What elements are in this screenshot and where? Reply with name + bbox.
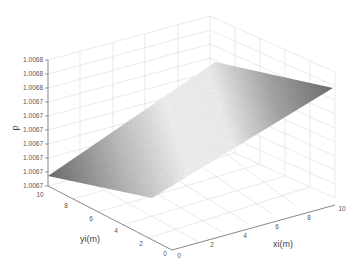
svg-text:0: 0 [163, 250, 167, 257]
svg-text:0: 0 [177, 252, 181, 259]
svg-text:1.0068: 1.0068 [23, 56, 43, 63]
surface [48, 62, 333, 198]
svg-text:10: 10 [36, 191, 44, 198]
y-tick-labels: 10 8 6 4 2 0 [36, 191, 167, 257]
svg-text:1.0067: 1.0067 [23, 140, 43, 147]
svg-text:1.0067: 1.0067 [23, 98, 43, 105]
svg-text:1.0067: 1.0067 [23, 168, 43, 175]
svg-text:4: 4 [243, 232, 247, 239]
svg-text:1.0068: 1.0068 [23, 70, 43, 77]
svg-text:8: 8 [64, 202, 68, 209]
z-tick-labels: 1.0068 1.0068 1.0068 1.0067 1.0067 1.006… [23, 56, 43, 189]
y-axis-label: yi(m) [80, 234, 100, 244]
svg-text:8: 8 [307, 214, 311, 221]
svg-text:4: 4 [114, 227, 118, 234]
svg-text:2: 2 [210, 241, 214, 248]
svg-text:10: 10 [338, 205, 346, 212]
z-axis-label: p [10, 125, 20, 130]
svg-text:1.0067: 1.0067 [23, 182, 43, 189]
surface-plot: 1.0068 1.0068 1.0068 1.0067 1.0067 1.006… [0, 0, 359, 268]
x-tick-labels: 0 2 4 6 8 10 [177, 205, 346, 259]
svg-text:1.0067: 1.0067 [23, 112, 43, 119]
svg-text:6: 6 [89, 215, 93, 222]
x-axis-label: xi(m) [273, 239, 293, 249]
svg-text:6: 6 [275, 223, 279, 230]
svg-text:1.0068: 1.0068 [23, 84, 43, 91]
svg-text:1.0067: 1.0067 [23, 126, 43, 133]
svg-text:1.0067: 1.0067 [23, 154, 43, 161]
svg-text:2: 2 [139, 240, 143, 247]
